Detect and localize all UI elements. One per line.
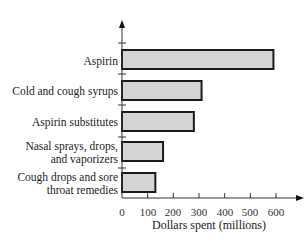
- category-label-aspirin-substitutes: Aspirin substitutes: [32, 116, 118, 129]
- bar-0: [122, 50, 273, 69]
- bar-2: [122, 112, 194, 131]
- category-label-cough-drops: Cough drops and sore throat remedies: [17, 171, 118, 197]
- x-axis-arrow-icon: [296, 195, 304, 201]
- bar-1: [122, 81, 202, 100]
- x-tick-label-0: 0: [119, 206, 125, 218]
- x-tick-label-200: 200: [165, 206, 182, 218]
- bar-3: [122, 142, 163, 161]
- x-tick-label-400: 400: [217, 206, 234, 218]
- y-axis-arrow-icon: [119, 20, 125, 28]
- horizontal-bar-chart: Aspirin Cold and cough syrups Aspirin su…: [0, 0, 308, 244]
- x-tick-label-300: 300: [191, 206, 208, 218]
- x-tick-label-100: 100: [140, 206, 157, 218]
- category-label-nasal-sprays: Nasal sprays, drops, and vaporizers: [25, 140, 118, 166]
- x-tick-label-500: 500: [242, 206, 259, 218]
- bar-4: [122, 173, 155, 192]
- x-tick-label-600: 600: [268, 206, 285, 218]
- category-label-cold-cough-syrups: Cold and cough syrups: [12, 85, 118, 98]
- category-label-aspirin: Aspirin: [84, 55, 119, 68]
- x-axis-title: Dollars spent (millions): [152, 218, 266, 233]
